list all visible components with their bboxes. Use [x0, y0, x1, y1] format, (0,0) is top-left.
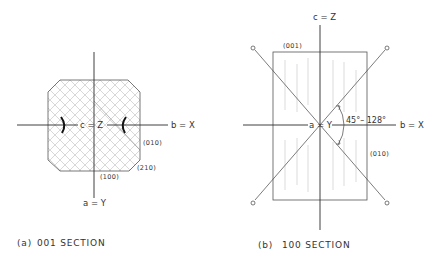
angle-arrow-top — [336, 106, 340, 110]
angle-label: 45°– 128° — [346, 117, 386, 125]
axis-label-c-z: c = Z — [313, 13, 336, 22]
caption-b-letter: (b) — [258, 241, 273, 250]
caption-b-text: 100 SECTION — [282, 241, 351, 250]
face-label-210: (210) — [137, 165, 156, 172]
angle-arrow-bottom — [336, 140, 340, 144]
face-label-010: (010) — [370, 151, 389, 158]
face-label-010: (010) — [143, 140, 162, 147]
caption-a-letter: (a) — [17, 239, 32, 248]
crystal-section-diagrams — [0, 0, 428, 262]
axis-label-b-x: b = X — [400, 121, 424, 130]
axis-label-b-x: b = X — [171, 121, 195, 130]
axis-label-a-y: a = Y — [309, 121, 332, 130]
face-label-001: (001) — [283, 43, 302, 50]
axis-label-c-z: c = Z — [80, 121, 103, 130]
face-label-100: (100) — [100, 174, 119, 181]
caption-a-text: 001 SECTION — [37, 239, 106, 248]
axis-label-a-y: a = Y — [83, 199, 106, 208]
